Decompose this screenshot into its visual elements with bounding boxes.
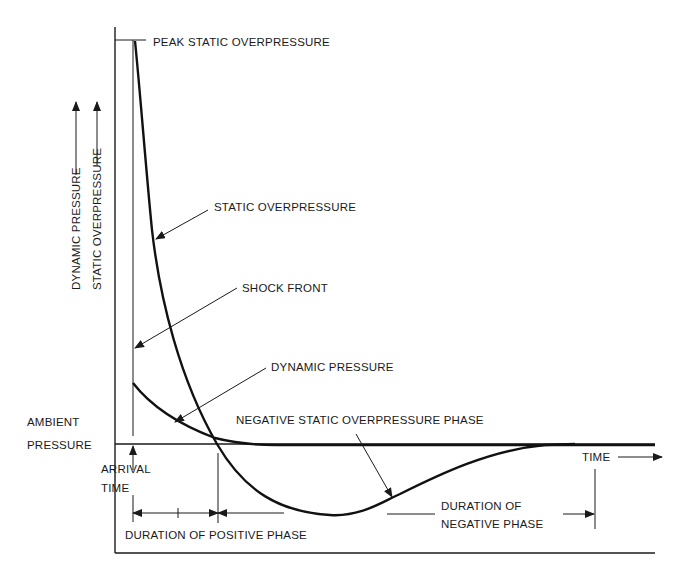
- arrival-time-label-line2: TIME: [101, 482, 129, 494]
- dynamic-pressure-label: DYNAMIC PRESSURE: [271, 361, 394, 373]
- arrival-time-label-line1: ARRIVAL: [101, 463, 151, 475]
- ambient-pressure-label-line2: PRESSURE: [27, 439, 92, 451]
- static-overpressure-pointer: [156, 210, 208, 239]
- shock-front-label: SHOCK FRONT: [242, 282, 328, 294]
- negative-phase-label: NEGATIVE STATIC OVERPRESSURE PHASE: [236, 414, 484, 426]
- ambient-pressure-label-line1: AMBIENT: [27, 416, 80, 428]
- time-axis-label: TIME: [582, 451, 610, 463]
- positive-phase-duration-label: DURATION OF POSITIVE PHASE: [125, 529, 307, 541]
- y-axis-label-static: STATIC OVERPRESSURE: [91, 148, 103, 290]
- negative-phase-duration-label-line1: DURATION OF: [441, 500, 522, 512]
- peak-static-overpressure-label: PEAK STATIC OVERPRESSURE: [153, 36, 330, 48]
- static-overpressure-label: STATIC OVERPRESSURE: [214, 201, 356, 213]
- shock-front-pointer: [135, 288, 237, 348]
- negative-phase-duration-label-line2: NEGATIVE PHASE: [441, 518, 543, 530]
- y-axis-label-dynamic: DYNAMIC PRESSURE: [70, 167, 82, 290]
- blast-wave-diagram: DYNAMIC PRESSURE STATIC OVERPRESSURE PEA…: [0, 0, 681, 581]
